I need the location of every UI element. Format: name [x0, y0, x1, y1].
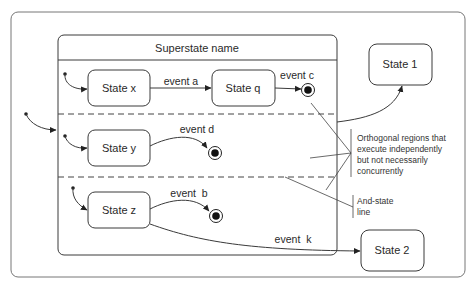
state-q: State q	[212, 70, 275, 106]
svg-text:line: line	[357, 207, 371, 217]
svg-text:State x: State x	[102, 82, 137, 94]
transition-label-event-a: event a	[164, 75, 199, 87]
superstate-name: Superstate name	[155, 42, 239, 54]
state-x: State x	[88, 70, 150, 106]
state-diagram: Superstate name State x event a State q …	[0, 0, 473, 287]
transition-label-event-k: event k	[275, 233, 313, 245]
svg-text:concurrently: concurrently	[357, 166, 404, 176]
svg-text:State 1: State 1	[383, 58, 418, 70]
state-1: State 1	[369, 44, 432, 85]
svg-text:execute independently: execute independently	[357, 144, 443, 154]
final-state-3	[210, 210, 223, 223]
state-2: State 2	[361, 230, 424, 271]
final-state-2	[209, 147, 222, 160]
svg-text:And-state: And-state	[357, 196, 394, 206]
svg-text:State q: State q	[226, 82, 261, 94]
svg-text:State y: State y	[102, 142, 137, 154]
final-state-1	[302, 84, 315, 97]
transition-label-event-b: event b	[170, 187, 208, 199]
svg-text:Orthogonal regions that: Orthogonal regions that	[357, 133, 446, 143]
transition-label-event-d: event d	[180, 123, 215, 135]
state-z: State z	[88, 192, 150, 228]
svg-text:but not necessarily: but not necessarily	[357, 155, 429, 165]
svg-text:State 2: State 2	[375, 244, 410, 256]
transition-to-state-1	[337, 86, 402, 122]
transition-label-event-c: event c	[280, 69, 314, 81]
svg-text:State z: State z	[102, 204, 136, 216]
state-y: State y	[88, 130, 150, 166]
initial-superstate	[24, 112, 56, 130]
